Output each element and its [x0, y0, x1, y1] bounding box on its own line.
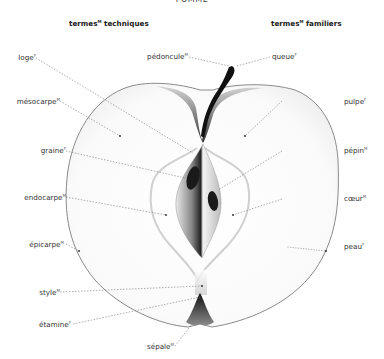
label-text: style [39, 288, 56, 297]
label-text: sépale [147, 342, 171, 351]
gender-marker: M [57, 288, 60, 293]
gender-marker: F [64, 146, 66, 151]
label-loge: logeF [0, 53, 36, 62]
gender-marker: M [364, 146, 367, 151]
gender-marker: F [295, 52, 297, 57]
label-pepin: pépinM [344, 146, 368, 155]
label-peau: peauF [344, 242, 364, 251]
gender-marker: F [69, 320, 71, 325]
label-text: pépin [344, 146, 364, 155]
label-pulpe: pulpeF [344, 97, 366, 106]
label-epicarpe: épicarpeM [0, 240, 64, 249]
label-text: graine [41, 146, 64, 155]
label-mesocarpe: mésocarpeM [0, 97, 60, 106]
gender-marker: M [171, 342, 174, 347]
label-text: loge [18, 53, 33, 62]
label-text: pédoncule [147, 52, 184, 61]
label-queue: queueF [272, 52, 297, 61]
label-text: épicarpe [29, 240, 60, 249]
label-text: cœur [344, 194, 363, 203]
label-text: endocarpe [24, 193, 62, 202]
gender-marker: M [57, 97, 60, 102]
apple-cross-section-illustration [0, 0, 384, 359]
gender-marker: F [34, 53, 36, 58]
gender-marker: M [61, 240, 64, 245]
label-text: mésocarpe [17, 97, 57, 106]
label-pedoncule: pédonculeM [100, 52, 188, 61]
label-text: peau [344, 242, 362, 251]
label-text: queue [272, 52, 295, 61]
gender-marker: M [185, 52, 188, 57]
label-coeur: cœurM [344, 194, 366, 203]
label-graine: graineF [0, 146, 66, 155]
label-endocarpe: endocarpeM [0, 193, 66, 202]
label-text: étamine [39, 320, 69, 329]
label-sepale: sépaleM [120, 342, 174, 351]
label-text: pulpe [344, 97, 364, 106]
style-area [195, 270, 207, 295]
gender-marker: M [363, 194, 366, 199]
gender-marker: M [63, 193, 66, 198]
gender-marker: F [364, 97, 366, 102]
label-etamine: étamineF [0, 320, 71, 329]
gender-marker: F [362, 242, 364, 247]
label-style: styleM [0, 288, 60, 297]
